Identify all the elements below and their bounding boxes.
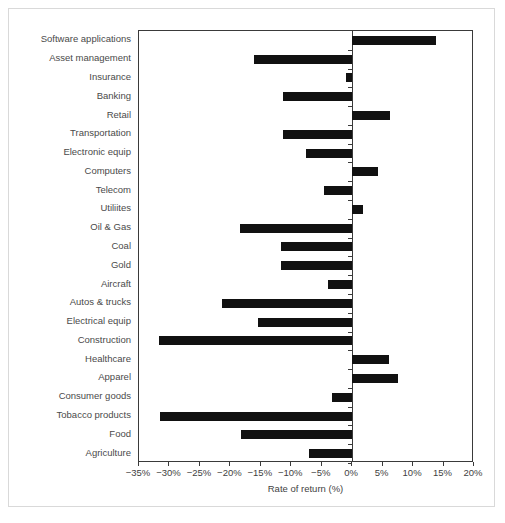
bar-row <box>139 350 472 369</box>
category-label: Software applications <box>41 34 131 44</box>
bar[interactable] <box>159 336 352 345</box>
x-tick-mark <box>412 462 413 466</box>
bar-row <box>139 87 472 106</box>
category-label: Consumer goods <box>59 391 131 401</box>
x-tick-mark <box>290 462 291 466</box>
x-tick-mark <box>351 462 352 466</box>
x-tick-mark <box>382 462 383 466</box>
bar-row <box>139 388 472 407</box>
category-label: Insurance <box>89 72 131 82</box>
bar-row <box>139 69 472 88</box>
x-tick-label: −20% <box>217 467 242 478</box>
bar-row <box>139 106 472 125</box>
bar[interactable] <box>352 167 378 176</box>
x-tick-mark <box>321 462 322 466</box>
bar[interactable] <box>283 92 352 101</box>
category-label: Healthcare <box>85 354 131 364</box>
x-tick-label: −35% <box>126 467 151 478</box>
category-label: Retail <box>107 110 131 120</box>
bar[interactable] <box>281 242 352 251</box>
x-tick-label: 5% <box>375 467 389 478</box>
category-label: Oil & Gas <box>90 222 131 232</box>
bar-row <box>139 31 472 50</box>
category-label: Asset management <box>49 53 131 63</box>
bar[interactable] <box>222 299 352 308</box>
x-tick-mark <box>473 462 474 466</box>
bar-row <box>139 125 472 144</box>
bar-row <box>139 238 472 257</box>
chart-card: Software applicationsAsset managementIns… <box>8 8 495 507</box>
x-axis-title: Rate of return (%) <box>138 483 473 494</box>
x-tick-mark <box>229 462 230 466</box>
bar[interactable] <box>241 430 352 439</box>
bar[interactable] <box>281 261 352 270</box>
x-tick-label: −15% <box>248 467 273 478</box>
plot-area <box>138 30 473 462</box>
bar[interactable] <box>346 73 352 82</box>
bar[interactable] <box>352 111 390 120</box>
x-tick-label: 10% <box>403 467 422 478</box>
category-label: Telecom <box>96 185 131 195</box>
bar-row <box>139 256 472 275</box>
bar-row <box>139 144 472 163</box>
bar[interactable] <box>352 36 435 45</box>
category-label: Transportation <box>70 128 131 138</box>
category-label: Banking <box>97 91 131 101</box>
bar-row <box>139 425 472 444</box>
bar[interactable] <box>240 224 352 233</box>
bar[interactable] <box>258 318 352 327</box>
bar-row <box>139 313 472 332</box>
x-tick-label: −5% <box>311 467 330 478</box>
bar[interactable] <box>328 280 352 289</box>
bar-row <box>139 162 472 181</box>
x-tick-mark <box>138 462 139 466</box>
bar-row <box>139 407 472 426</box>
bar[interactable] <box>254 55 353 64</box>
bar-row <box>139 181 472 200</box>
x-tick-mark <box>443 462 444 466</box>
bar-row <box>139 50 472 69</box>
bar[interactable] <box>309 449 352 458</box>
bar[interactable] <box>324 186 352 195</box>
category-label: Gold <box>111 260 131 270</box>
category-label: Electronic equip <box>63 147 131 157</box>
bar[interactable] <box>283 130 352 139</box>
bar-row <box>139 200 472 219</box>
x-tick-label: 0% <box>344 467 358 478</box>
category-label: Apparel <box>98 372 131 382</box>
x-tick-mark <box>168 462 169 466</box>
category-label: Autos & trucks <box>70 297 131 307</box>
category-label: Utiliites <box>100 203 131 213</box>
bar-row <box>139 219 472 238</box>
bar-row <box>139 332 472 351</box>
category-label: Computers <box>85 166 131 176</box>
category-label: Aircraft <box>101 279 131 289</box>
bar[interactable] <box>352 374 398 383</box>
category-label: Electrical equip <box>67 316 131 326</box>
x-tick-label: −25% <box>187 467 212 478</box>
bar[interactable] <box>306 149 352 158</box>
bar-row <box>139 275 472 294</box>
bar-row <box>139 444 472 463</box>
category-axis-labels: Software applicationsAsset managementIns… <box>9 30 135 462</box>
bar[interactable] <box>352 205 362 214</box>
x-tick-mark <box>260 462 261 466</box>
bar[interactable] <box>352 355 389 364</box>
bar-row <box>139 369 472 388</box>
x-tick-label: 20% <box>463 467 482 478</box>
x-tick-label: −30% <box>156 467 181 478</box>
bar-row <box>139 294 472 313</box>
bar[interactable] <box>332 393 352 402</box>
category-label: Food <box>109 429 131 439</box>
category-label: Construction <box>78 335 131 345</box>
category-label: Coal <box>111 241 131 251</box>
bar[interactable] <box>160 412 352 421</box>
x-tick-mark <box>199 462 200 466</box>
category-label: Agriculture <box>86 448 131 458</box>
x-tick-label: 15% <box>433 467 452 478</box>
category-label: Tobacco products <box>57 410 131 420</box>
x-tick-label: −10% <box>278 467 303 478</box>
x-axis-tick-labels: −35%−30%−25%−20%−15%−10%−5%0%5%10%15%20% <box>138 467 473 481</box>
